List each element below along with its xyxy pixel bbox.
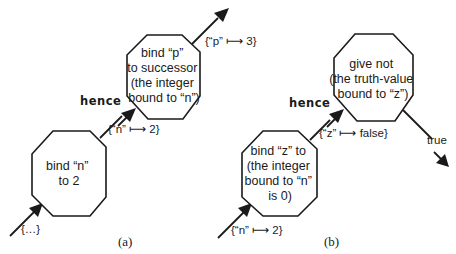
middle-label-a: {“n” ⟼ 2} [108, 123, 160, 135]
caption-b: (b) [324, 234, 339, 249]
middle-label-b: {“z” ⟼ false} [319, 127, 388, 139]
caption-a: (a) [118, 234, 132, 249]
output-label-b: true [427, 134, 447, 146]
panel-a: {…} bind “n” to 2 {“n” ⟼ 2} hence bind “… [10, 8, 257, 249]
input-label-b: {“n” ⟼ 2} [231, 224, 283, 236]
hence-label-a: hence [80, 94, 121, 108]
output-arrow-b [434, 152, 441, 159]
output-label-a: {“p” ⟼ 3} [205, 35, 257, 47]
hence-label-b: hence [289, 96, 330, 110]
diagram-canvas: {…} bind “n” to 2 {“n” ⟼ 2} hence bind “… [0, 0, 456, 254]
input-label-a: {…} [21, 223, 40, 235]
arrowhead-icon [329, 109, 344, 123]
panel-b: {“n” ⟼ 2} bind “z” to (the integer bound… [218, 34, 449, 249]
